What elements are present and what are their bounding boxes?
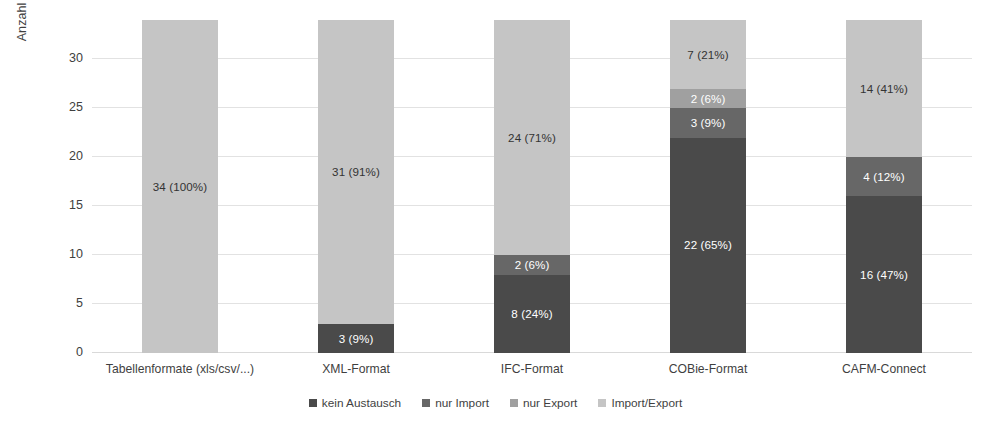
legend-label: nur Import <box>435 396 489 410</box>
y-axis-title: Anzahl (Anteil) der Anwendungen <box>10 0 34 90</box>
bar-segment[interactable]: 14 (41%) <box>846 20 922 157</box>
legend-swatch-icon <box>510 399 518 407</box>
y-tick-label: 15 <box>69 198 83 212</box>
legend-item[interactable]: kein Austausch <box>309 396 401 410</box>
x-category-label: CAFM-Connect <box>842 362 926 376</box>
bar-segment[interactable]: 31 (91%) <box>318 20 394 324</box>
x-category-label: IFC-Format <box>501 362 563 376</box>
bar-group[interactable]: 24 (71%)2 (6%)8 (24%) <box>494 20 570 353</box>
bar-segment[interactable]: 34 (100%) <box>142 20 218 353</box>
legend-item[interactable]: nur Export <box>510 396 577 410</box>
bar-segment[interactable]: 24 (71%) <box>494 20 570 255</box>
bar-segment[interactable]: 7 (21%) <box>670 20 746 89</box>
x-category-label: XML-Format <box>322 362 390 376</box>
y-tick-label: 10 <box>69 247 83 261</box>
bar-segment[interactable]: 2 (6%) <box>670 89 746 109</box>
bar-segment[interactable]: 4 (12%) <box>846 157 922 196</box>
bar-group[interactable]: 14 (41%)4 (12%)16 (47%) <box>846 20 922 353</box>
bar-segment-label: 34 (100%) <box>153 181 207 193</box>
legend-swatch-icon <box>422 399 430 407</box>
bar-segment[interactable]: 16 (47%) <box>846 196 922 353</box>
legend-label: Import/Export <box>611 396 682 410</box>
bar-segment[interactable]: 3 (9%) <box>318 324 394 353</box>
bar-group[interactable]: 7 (21%)2 (6%)3 (9%)22 (65%) <box>670 20 746 353</box>
y-tick-label: 25 <box>69 100 83 114</box>
chart-legend: kein Austauschnur Importnur ExportImport… <box>0 396 991 410</box>
bar-segment-label: 31 (91%) <box>332 166 380 178</box>
bar-segment-label: 7 (21%) <box>687 49 728 61</box>
bar-group[interactable]: 34 (100%) <box>142 20 218 353</box>
bar-segment-label: 3 (9%) <box>691 117 726 129</box>
bar-segment-label: 16 (47%) <box>860 269 908 281</box>
bar-segment-label: 24 (71%) <box>508 132 556 144</box>
bar-segment[interactable]: 8 (24%) <box>494 275 570 353</box>
legend-item[interactable]: Import/Export <box>598 396 682 410</box>
legend-swatch-icon <box>309 399 317 407</box>
bar-segment-label: 22 (65%) <box>684 239 732 251</box>
bar-segment-label: 14 (41%) <box>860 83 908 95</box>
y-tick-label: 5 <box>76 296 83 310</box>
stacked-bar-chart: Anzahl (Anteil) der Anwendungen 05101520… <box>0 0 991 431</box>
bar-segment-label: 2 (6%) <box>515 259 550 271</box>
bar-segment[interactable]: 3 (9%) <box>670 108 746 137</box>
x-category-label: COBie-Format <box>669 362 748 376</box>
legend-label: nur Export <box>523 396 577 410</box>
legend-swatch-icon <box>598 399 606 407</box>
legend-item[interactable]: nur Import <box>422 396 489 410</box>
y-tick-label: 0 <box>76 345 83 359</box>
bar-segment-label: 2 (6%) <box>691 93 726 105</box>
plot-area: 05101520253034 (100%)31 (91%)3 (9%)24 (7… <box>92 20 972 353</box>
bar-segment-label: 4 (12%) <box>863 171 904 183</box>
bar-segment-label: 3 (9%) <box>339 333 374 345</box>
y-tick-label: 20 <box>69 149 83 163</box>
bar-segment[interactable]: 2 (6%) <box>494 255 570 275</box>
y-tick-label: 30 <box>69 51 83 65</box>
legend-label: kein Austausch <box>322 396 401 410</box>
bar-segment[interactable]: 22 (65%) <box>670 138 746 353</box>
bar-segment-label: 8 (24%) <box>511 308 552 320</box>
x-category-label: Tabellenformate (xls/csv/...) <box>106 362 254 376</box>
bar-group[interactable]: 31 (91%)3 (9%) <box>318 20 394 353</box>
